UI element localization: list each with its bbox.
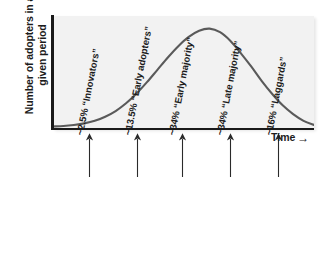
up-arrow-icon bbox=[226, 132, 235, 178]
up-arrow-icon bbox=[85, 132, 94, 178]
x-axis-label-text: Time bbox=[271, 131, 295, 143]
adoption-curve-figure: Number of adopters in a given period ~2.… bbox=[0, 0, 334, 269]
y-axis-label-line2: given period bbox=[36, 0, 49, 140]
category-arrow-4 bbox=[226, 132, 235, 178]
category-arrow-3 bbox=[178, 132, 187, 178]
x-axis-label: Time→ bbox=[271, 131, 309, 143]
up-arrow-icon bbox=[178, 132, 187, 178]
y-axis-label: Number of adopters in a given period bbox=[23, 0, 53, 140]
category-arrow-2 bbox=[133, 132, 142, 178]
y-axis-line bbox=[51, 15, 54, 130]
y-axis-label-line1: Number of adopters in a bbox=[23, 0, 35, 114]
category-arrow-1 bbox=[85, 132, 94, 178]
up-arrow-icon bbox=[133, 132, 142, 178]
right-arrow-icon: → bbox=[297, 133, 309, 143]
